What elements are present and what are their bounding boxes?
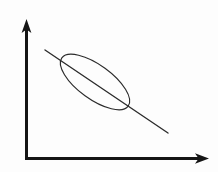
y-axis [22, 19, 32, 158]
regression-line [45, 50, 168, 133]
data-cloud-ellipse [52, 44, 138, 120]
chart-canvas [0, 0, 218, 172]
chart-figure [0, 0, 218, 172]
x-axis [25, 153, 209, 163]
